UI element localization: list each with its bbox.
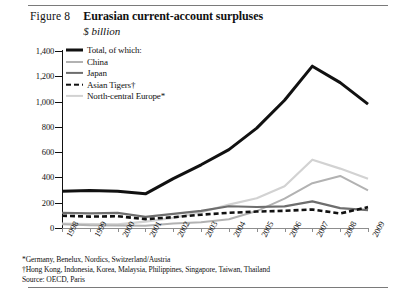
x-axis-tick — [285, 228, 286, 232]
x-axis-tick — [90, 228, 91, 232]
y-axis-tick-label: 1,200 — [2, 71, 54, 81]
legend-item-china: China — [66, 57, 165, 67]
x-axis-tick — [201, 228, 202, 232]
y-axis-tick-label: 1,000 — [2, 97, 54, 107]
x-axis-tick-label: 1999 — [92, 220, 108, 239]
x-axis-tick — [62, 228, 63, 232]
legend-item-japan: Japan — [66, 68, 165, 78]
x-axis-tick — [340, 228, 341, 232]
legend-label: Japan — [87, 68, 107, 78]
legend-label: Total, of which: — [87, 45, 142, 55]
footnote-2: †Hong Kong, Indonesia, Korea, Malaysia, … — [22, 265, 270, 275]
y-axis-tick — [55, 127, 62, 128]
y-axis-tick — [55, 152, 62, 153]
y-axis-tick — [55, 177, 62, 178]
x-axis-tick — [145, 228, 146, 232]
y-axis-line — [62, 50, 63, 229]
series-line — [62, 201, 368, 217]
x-axis-tick-label: 2000 — [120, 220, 136, 239]
chart-plot-area: 02004006008001,0001,2001,400 19981999200… — [0, 0, 402, 296]
y-axis-tick-label: 800 — [2, 122, 54, 132]
footnote-1: *Germany, Benelux, Nordics, Switzerland/… — [22, 255, 270, 265]
legend-item-total: Total, of which: — [66, 45, 165, 55]
series-line — [62, 160, 368, 225]
x-axis-tick-label: 2005 — [259, 220, 275, 239]
legend-line-icon — [66, 61, 83, 63]
x-axis-tick-label: 2004 — [231, 220, 247, 239]
legend-label: North-central Europe* — [87, 91, 165, 101]
legend-swatch-japan-icon — [66, 68, 83, 78]
x-axis-tick-label: 2006 — [287, 220, 303, 239]
series-lines — [0, 0, 402, 296]
y-axis-labels: 02004006008001,0001,2001,400 — [0, 0, 54, 296]
footnotes: *Germany, Benelux, Nordics, Switzerland/… — [22, 255, 270, 285]
y-axis-tick — [55, 203, 62, 204]
legend-swatch-total-icon — [66, 45, 83, 55]
legend-line-icon — [66, 95, 83, 97]
y-axis-tick-label: 1,400 — [2, 46, 54, 56]
y-axis-tick — [55, 102, 62, 103]
x-axis-tick-label: 2009 — [370, 220, 386, 239]
legend-item-nc_europe: North-central Europe* — [66, 91, 165, 101]
series-line — [62, 176, 368, 226]
y-axis-tick — [55, 51, 62, 52]
y-axis-tick-label: 0 — [2, 223, 54, 233]
y-axis-tick-label: 400 — [2, 172, 54, 182]
x-axis-tick — [173, 228, 174, 232]
series-line — [62, 207, 368, 219]
y-axis-tick — [55, 76, 62, 77]
legend-line-icon — [66, 72, 83, 74]
legend-label: Asian Tigers† — [87, 80, 135, 90]
legend-swatch-china-icon — [66, 57, 83, 67]
legend-item-asian_tigers: Asian Tigers† — [66, 80, 165, 90]
legend-swatch-asian_tigers-icon — [66, 80, 83, 90]
y-axis-tick-label: 600 — [2, 147, 54, 157]
legend-label: China — [87, 57, 108, 67]
x-axis-tick — [257, 228, 258, 232]
x-axis-tick — [368, 228, 369, 232]
x-axis-tick — [229, 228, 230, 232]
legend-line-icon — [66, 49, 83, 52]
chart-legend: Total, of which:ChinaJapanAsian Tigers†N… — [66, 45, 165, 101]
x-axis-tick — [312, 228, 313, 232]
x-axis-tick — [118, 228, 119, 232]
legend-swatch-nc_europe-icon — [66, 91, 83, 101]
y-axis-tick-label: 200 — [2, 198, 54, 208]
footnote-3: Source: OECD, Paris — [22, 275, 270, 285]
legend-dash-icon — [66, 83, 83, 86]
y-axis-tick — [55, 228, 62, 229]
